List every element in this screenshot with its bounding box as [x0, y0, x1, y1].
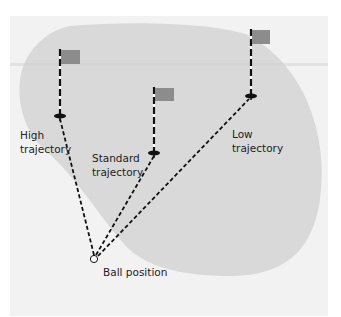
- label-line: High: [20, 128, 71, 142]
- flag-icon: [61, 50, 80, 64]
- label-line: trajectory: [92, 165, 143, 179]
- label-line: trajectory: [20, 142, 71, 156]
- flag-icon: [252, 30, 270, 44]
- label-line: Low: [232, 127, 283, 141]
- horizontal-band: [10, 63, 328, 66]
- ball-icon: [90, 255, 97, 262]
- label-line: Ball position: [103, 265, 167, 279]
- label-standard-trajectory: Standard trajectory: [92, 151, 143, 179]
- label-low-trajectory: Low trajectory: [232, 127, 283, 155]
- golf-diagram: [0, 0, 341, 317]
- flag-icon: [155, 88, 174, 101]
- label-high-trajectory: High trajectory: [20, 128, 71, 156]
- label-ball-position: Ball position: [103, 265, 167, 279]
- label-line: Standard: [92, 151, 143, 165]
- label-line: trajectory: [232, 141, 283, 155]
